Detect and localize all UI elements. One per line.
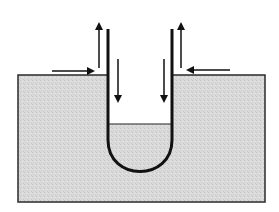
u-tube-diagram xyxy=(0,0,279,212)
